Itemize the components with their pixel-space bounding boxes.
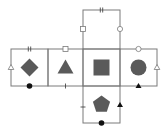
marker-right-face-right <box>154 65 160 70</box>
marker-center-left-face-top <box>63 47 68 52</box>
cube-net-diagram <box>0 0 165 134</box>
square-shape <box>94 60 110 76</box>
face-top <box>83 10 120 49</box>
diamond-shape <box>21 59 39 77</box>
marker-top-face-right <box>117 26 122 31</box>
marker-left-face-bottom <box>27 83 33 89</box>
marker-left-face-left <box>8 65 14 70</box>
circle-shape <box>131 60 147 76</box>
marker-bottom-face-bottom <box>99 120 105 126</box>
marker-right-face-top <box>136 46 141 51</box>
marker-top-face-left <box>81 27 86 32</box>
marker-bottom-face-right <box>117 102 123 107</box>
triangle-shape <box>58 60 74 74</box>
pentagon-shape <box>93 96 110 112</box>
